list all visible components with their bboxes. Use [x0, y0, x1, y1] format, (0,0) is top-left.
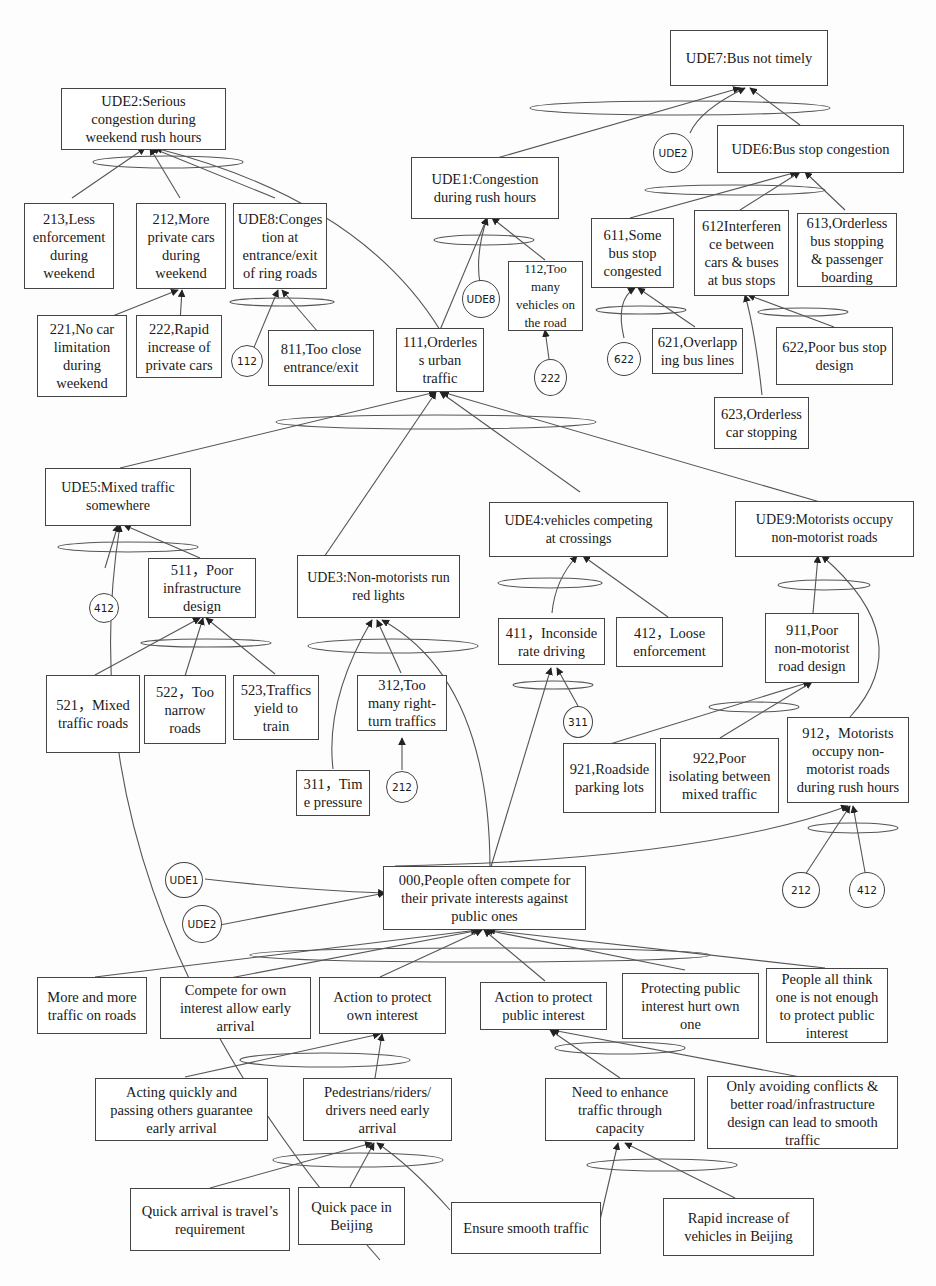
node-612: 612Interferen ce between cars & buses at… — [694, 210, 789, 296]
node-212: 212,More private cars during weekend — [136, 203, 226, 289]
ref-622: 622 — [607, 342, 641, 376]
node-411: 411，Inconside rate driving — [498, 618, 605, 665]
ref-212-mid: 212 — [386, 771, 418, 803]
node-222: 222,Rapid increase of private cars — [136, 315, 222, 378]
node-412: 412，Loose enforcement — [616, 617, 723, 667]
node-521: 521，Mixed traffic roads — [46, 675, 140, 753]
node-311: 311，Tim e pressure — [296, 770, 370, 816]
ref-212-right: 212 — [782, 872, 820, 908]
ref-311: 311 — [563, 706, 593, 738]
node-ude3: UDE3:Non-motorists run red lights — [297, 555, 460, 618]
node-ude7: UDE7:Bus not timely — [670, 30, 828, 86]
ref-222: 222 — [534, 359, 567, 396]
node-111: 111,Orderles s urban traffic — [396, 328, 484, 392]
ref-412-right: 412 — [849, 872, 885, 908]
node-523: 523,Traffics yield to train — [233, 675, 319, 740]
node-ude6: UDE6:Bus stop congestion — [717, 125, 904, 173]
ref-112: 112 — [231, 345, 263, 377]
node-enhance-capacity: Need to enhance traffic through capacity — [545, 1078, 695, 1141]
node-ude5: UDE5:Mixed traffic somewhere — [45, 468, 191, 526]
node-623: 623,Orderless car stopping — [714, 397, 809, 449]
node-811: 811,Too close entrance/exit — [268, 330, 374, 386]
node-622: 622,Poor bus stop design — [776, 327, 893, 385]
node-protect-own-interest: Action to protect own interest — [319, 977, 446, 1034]
node-ude8: UDE8:Conges tion at entrance/exit of rin… — [233, 203, 327, 289]
node-quick-pace: Quick pace in Beijing — [298, 1187, 405, 1245]
node-221: 221,No car limitation during weekend — [37, 315, 127, 397]
node-ude1: UDE1:Congestion during rush hours — [411, 157, 559, 219]
node-not-enough: People all think one is not enough to pr… — [766, 968, 888, 1043]
ref-ude2: UDE2 — [182, 905, 222, 943]
node-921: 921,Roadside parking lots — [563, 743, 656, 813]
node-compete-own-interest: Compete for own interest allow early arr… — [160, 977, 311, 1039]
node-ude9: UDE9:Motorists occupy non-motorist roads — [735, 501, 914, 557]
node-522: 522，Too narrow roads — [144, 675, 226, 744]
node-protect-public-interest: Action to protect public interest — [480, 982, 607, 1030]
node-ude2: UDE2:Serious congestion during weekend r… — [61, 88, 226, 150]
node-213: 213,Less enforcement during weekend — [24, 203, 114, 289]
ref-ude1: UDE1 — [165, 862, 203, 898]
node-911: 911,Poor non-motorist road design — [765, 613, 859, 683]
node-000: 000,People often compete for their priva… — [383, 866, 586, 930]
node-621: 621,Overlapp ing bus lines — [652, 328, 743, 374]
node-smooth-traffic: Ensure smooth traffic — [451, 1202, 601, 1254]
node-611: 611,Some bus stop congested — [591, 218, 674, 288]
node-quick-arrival: Quick arrival is travel’s requirement — [130, 1188, 290, 1251]
node-need-early-arrival: Pedestrians/riders/ drivers need early a… — [303, 1078, 452, 1141]
node-rapid-increase-vehicles: Rapid increase of vehicles in Beijing — [663, 1198, 814, 1256]
node-511: 511，Poor infrastructure design — [148, 558, 256, 618]
node-acting-quickly: Acting quickly and passing others guaran… — [95, 1078, 268, 1141]
node-112: 112,Too many vehicles on the road — [508, 261, 583, 331]
ref-ude8: UDE8 — [462, 280, 500, 318]
ref-ude2-top: UDE2 — [653, 133, 693, 173]
node-922: 922,Poor isolating between mixed traffic — [660, 738, 779, 813]
node-more-traffic: More and more traffic on roads — [37, 977, 147, 1034]
node-ude4: UDE4:vehicles competing at crossings — [489, 502, 668, 557]
node-protecting-hurts-own: Protecting public interest hurt own one — [622, 973, 759, 1039]
node-avoid-conflicts: Only avoiding conflicts & better road/in… — [707, 1076, 898, 1149]
ref-412-left: 412 — [89, 593, 119, 623]
node-613: 613,Orderless bus stopping & passenger b… — [797, 213, 897, 287]
current-reality-tree-diagram: UDE7:Bus not timely UDE2:Serious congest… — [0, 0, 936, 1286]
node-312: 312,Too many right- turn traffics — [357, 675, 447, 731]
node-912: 912，Motorists occupy non- motorist roads… — [787, 717, 909, 803]
